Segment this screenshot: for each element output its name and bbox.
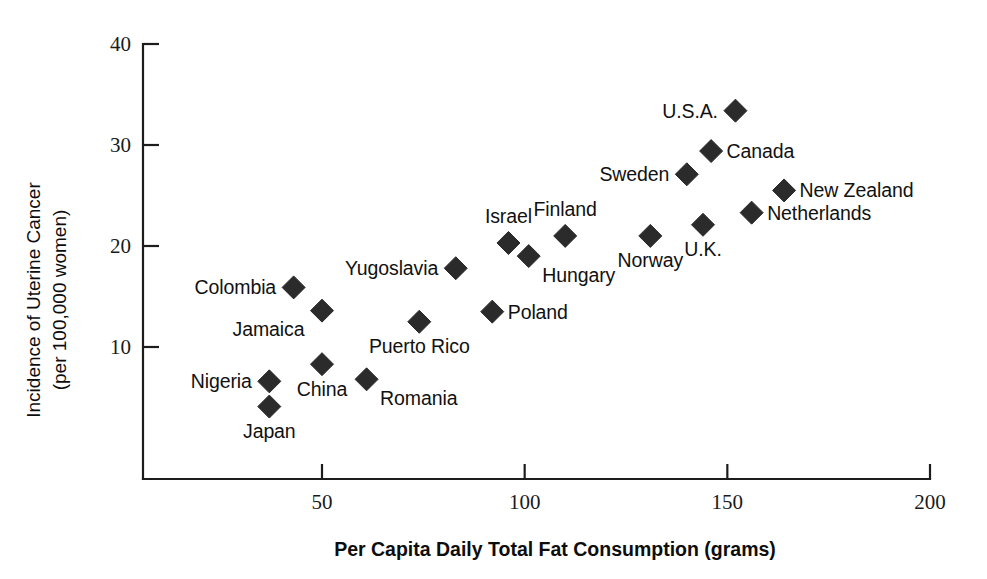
data-point-yugoslavia [444,257,467,280]
x-tick-label-100: 100 [509,490,541,514]
data-label-new-zealand: New Zealand [800,179,914,201]
data-label-finland: Finland [534,198,597,220]
data-label-china: China [297,378,348,400]
data-label-japan: Japan [243,420,296,442]
y-axis-title: Incidence of Uterine Cancer (per 100,000… [23,182,70,418]
y-tick-label-10: 10 [110,335,131,359]
y-tick-label-30: 30 [110,133,131,157]
y-tick-label-20: 20 [110,234,131,258]
data-label-poland: Poland [508,301,568,323]
data-label-yugoslavia: Yugoslavia [345,257,439,279]
data-label-puerto-rico: Puerto Rico [369,335,470,357]
data-point-china [311,353,334,376]
data-point-norway [639,224,662,247]
data-label-israel: Israel [485,205,532,227]
data-point-israel [497,231,520,254]
data-point-sweden [675,163,698,186]
data-point-poland [481,300,504,323]
data-point-romania [355,368,378,391]
data-point-netherlands [740,201,763,224]
data-point-colombia [282,276,305,299]
data-label-netherlands: Netherlands [767,202,871,224]
data-label-colombia: Colombia [195,276,277,298]
axis-ticks: 1020304050100150200 [110,32,946,514]
y-axis-title-line2: (per 100,000 women) [49,210,70,391]
y-axis-title-line1: Incidence of Uterine Cancer [23,182,44,418]
data-label-jamaica: Jamaica [233,318,305,340]
data-point-canada [700,140,723,163]
data-label-sweden: Sweden [599,163,669,185]
data-label-canada: Canada [727,140,795,162]
data-label-hungary: Hungary [542,264,615,286]
data-point-puerto-rico [408,310,431,333]
data-point-finland [554,224,577,247]
x-axis-title: Per Capita Daily Total Fat Consumption (… [334,538,776,560]
data-points: JapanNigeriaChinaRomaniaPuerto RicoColom… [191,99,914,442]
data-label-u-k: U.K. [684,238,722,260]
data-point-hungary [517,245,540,268]
x-tick-label-200: 200 [914,490,946,514]
chart-canvas: 1020304050100150200 JapanNigeriaChinaRom… [0,0,987,579]
data-label-nigeria: Nigeria [191,370,252,392]
data-point-new-zealand [773,179,796,202]
data-point-u-k [692,213,715,236]
chart-axes [143,44,930,479]
data-point-japan [258,395,281,418]
data-label-u-s-a: U.S.A. [662,100,718,122]
x-tick-label-50: 50 [312,490,333,514]
y-tick-label-40: 40 [110,32,131,56]
x-tick-label-150: 150 [712,490,744,514]
scatter-plot-figure: 1020304050100150200 JapanNigeriaChinaRom… [0,0,987,579]
data-label-norway: Norway [618,249,684,271]
data-point-nigeria [258,370,281,393]
data-point-jamaica [311,299,334,322]
data-point-u-s-a [724,99,747,122]
data-label-romania: Romania [380,387,458,409]
